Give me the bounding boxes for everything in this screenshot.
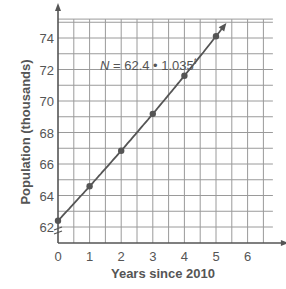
y-tick-label: 72: [40, 63, 54, 78]
y-tick-label: 74: [40, 31, 54, 46]
data-point: [55, 218, 61, 224]
data-point: [150, 111, 156, 117]
y-tick-label: 64: [40, 189, 54, 204]
series-line: [58, 26, 224, 221]
y-tick-label: 62: [40, 220, 54, 235]
data-point: [118, 148, 124, 154]
y-tick-label: 68: [40, 126, 54, 141]
y-axis-label: Population (thousands): [18, 59, 33, 204]
x-axis-label: Years since 2010: [111, 266, 215, 281]
x-tick-label: 3: [149, 249, 156, 264]
x-tick-label: 6: [244, 249, 251, 264]
equation-annotation: N = 62.4 • 1.035t: [100, 56, 197, 73]
axes: [54, 3, 286, 246]
x-tick-label: 5: [212, 249, 219, 264]
y-tick-label: 70: [40, 94, 54, 109]
x-axis-arrow-icon: [281, 240, 286, 246]
x-tick-label: 0: [54, 249, 61, 264]
data-point: [181, 73, 187, 79]
data-point: [213, 33, 219, 39]
y-axis-arrow-icon: [55, 3, 61, 11]
x-tick-label: 1: [86, 249, 93, 264]
data-point: [86, 183, 92, 189]
y-tick-label: 66: [40, 157, 54, 172]
x-tick-label: 2: [118, 249, 125, 264]
population-growth-chart: 012345662646668707274 N = 62.4 • 1.035t …: [0, 0, 286, 289]
grid-lines: [58, 19, 273, 243]
x-tick-label: 4: [181, 249, 188, 264]
